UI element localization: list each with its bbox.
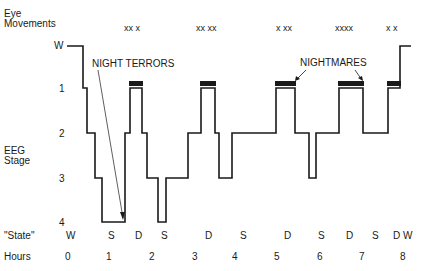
hypnogram-plot: [0, 0, 425, 271]
nightmares-arrowhead-right: [358, 76, 363, 81]
rem-bar-4: [338, 81, 364, 86]
rem-bar-1: [129, 81, 143, 86]
rem-bar-3: [275, 81, 296, 86]
sleep-stage-trace: [67, 46, 411, 222]
rem-bar-2: [200, 81, 216, 86]
rem-bar-5: [387, 81, 401, 86]
